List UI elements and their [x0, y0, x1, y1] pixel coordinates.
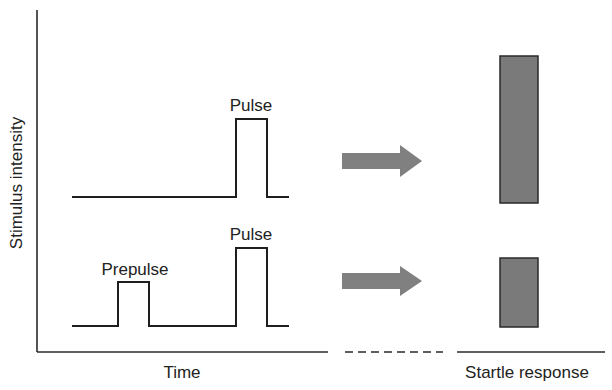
x-axis-label-time: Time — [163, 363, 200, 382]
pulse-label-top: Pulse — [230, 96, 273, 115]
startle-response-bar-large — [500, 56, 538, 203]
arrow-right-icon-top — [342, 145, 422, 177]
prepulse-label: Prepulse — [101, 260, 168, 279]
arrow-right-icon-bottom — [342, 266, 422, 296]
startle-response-bar-reduced — [500, 258, 538, 327]
trace-pulse-alone — [72, 119, 289, 197]
pulse-label-bottom: Pulse — [230, 225, 273, 244]
prepulse-inhibition-diagram: Stimulus intensity Pulse Prepulse Pulse … — [0, 0, 612, 390]
x-axis-label-startle-response: Startle response — [465, 363, 589, 382]
y-axis-label: Stimulus intensity — [7, 116, 26, 249]
